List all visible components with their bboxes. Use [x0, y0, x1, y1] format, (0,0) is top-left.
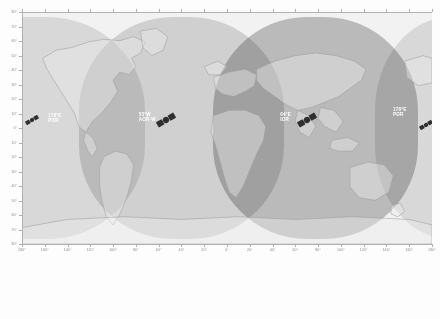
y-tick: [19, 143, 22, 144]
y-tick-label: 10°: [2, 141, 17, 145]
y-tick: [19, 244, 22, 245]
y-tick: [19, 230, 22, 231]
y-tick-label: 0°: [2, 126, 17, 130]
y-tick: [19, 201, 22, 202]
satellite-marker-ior: [296, 112, 318, 132]
axis-left: [22, 12, 23, 244]
x-tick: [181, 9, 182, 12]
y-tick-label: 70°: [2, 25, 17, 29]
y-tick-label: 10°: [2, 112, 17, 116]
satellite-label-por-west: 178°E POR: [48, 113, 61, 124]
sat-region-ior: IOR: [280, 117, 289, 122]
satellite-marker-por-west: [24, 112, 40, 130]
x-tick: [409, 9, 410, 12]
y-tick-label: 20°: [2, 97, 17, 101]
x-tick: [136, 244, 137, 247]
footer: F1 I-4 satellite F2 I-4 satellite F3 I-4…: [0, 252, 440, 319]
sat-region-por-west: POR: [48, 118, 58, 123]
map-panel: 178°E POR 53°W AOR-W: [0, 0, 440, 252]
x-tick: [364, 244, 365, 247]
x-tick: [90, 244, 91, 247]
x-tick: [136, 9, 137, 12]
y-tick: [19, 172, 22, 173]
y-tick: [19, 157, 22, 158]
x-tick: [341, 244, 342, 247]
y-tick-label: 60°: [2, 39, 17, 43]
y-tick: [19, 99, 22, 100]
x-tick: [409, 244, 410, 247]
satellite-icon: [296, 112, 318, 128]
x-tick: [22, 244, 23, 247]
y-tick-label: 40°: [2, 68, 17, 72]
y-tick-label: 30°: [2, 170, 17, 174]
coverage-map-page: 178°E POR 53°W AOR-W: [0, 0, 440, 319]
y-tick-label: 40°: [2, 184, 17, 188]
y-tick-label: 30°: [2, 83, 17, 87]
x-tick: [68, 9, 69, 12]
x-tick: [295, 244, 296, 247]
y-tick: [19, 56, 22, 57]
x-tick: [318, 9, 319, 12]
x-tick: [45, 9, 46, 12]
y-tick-label: 80°: [2, 242, 17, 246]
satellite-icon: [155, 112, 177, 128]
y-tick-label: 80°: [2, 10, 17, 14]
y-tick-label: 20°: [2, 155, 17, 159]
x-tick: [364, 9, 365, 12]
satellite-icon: [24, 114, 40, 126]
y-tick-label: 60°: [2, 213, 17, 217]
sat-lon-por-east: 178°E: [393, 107, 406, 112]
x-tick: [295, 9, 296, 12]
map-plot-area: 178°E POR 53°W AOR-W: [22, 12, 432, 244]
x-tick: [113, 244, 114, 247]
y-tick: [19, 215, 22, 216]
y-tick-label: 70°: [2, 228, 17, 232]
x-tick: [22, 9, 23, 12]
x-tick: [273, 9, 274, 12]
sat-lon-por-west: 178°E: [48, 113, 61, 118]
x-tick: [68, 244, 69, 247]
x-tick: [181, 244, 182, 247]
x-tick: [273, 244, 274, 247]
y-tick: [19, 70, 22, 71]
satellite-icon: [418, 119, 432, 131]
x-tick: [432, 9, 433, 12]
y-tick-label: 50°: [2, 199, 17, 203]
x-tick: [250, 244, 251, 247]
x-tick: [204, 9, 205, 12]
y-tick: [19, 186, 22, 187]
satellite-label-ior: 64°E IOR: [280, 112, 291, 123]
y-tick: [19, 128, 22, 129]
y-tick: [19, 114, 22, 115]
x-tick: [432, 244, 433, 247]
axis-top: [22, 12, 432, 13]
x-tick: [318, 244, 319, 247]
sat-region-por-east: POR: [393, 112, 403, 117]
sat-lon-aorw: 53°W: [139, 112, 151, 117]
x-tick: [386, 244, 387, 247]
y-tick-label: 50°: [2, 54, 17, 58]
x-tick: [159, 244, 160, 247]
x-tick: [90, 9, 91, 12]
x-tick: [341, 9, 342, 12]
y-tick: [19, 85, 22, 86]
x-tick: [45, 244, 46, 247]
satellite-marker-por-east: [418, 117, 432, 135]
x-tick: [159, 9, 160, 12]
x-tick: [227, 244, 228, 247]
x-tick: [113, 9, 114, 12]
satellite-marker-aorw: [155, 112, 177, 132]
x-tick: [227, 9, 228, 12]
satellite-label-aorw: 53°W AOR-W: [139, 112, 156, 123]
y-tick: [19, 12, 22, 13]
x-tick: [386, 9, 387, 12]
satellite-label-por-east: 178°E POR: [393, 107, 406, 118]
y-tick: [19, 27, 22, 28]
sat-lon-ior: 64°E: [280, 112, 291, 117]
x-tick: [250, 9, 251, 12]
x-tick: [204, 244, 205, 247]
sat-region-aorw: AOR-W: [139, 117, 156, 122]
y-tick: [19, 41, 22, 42]
